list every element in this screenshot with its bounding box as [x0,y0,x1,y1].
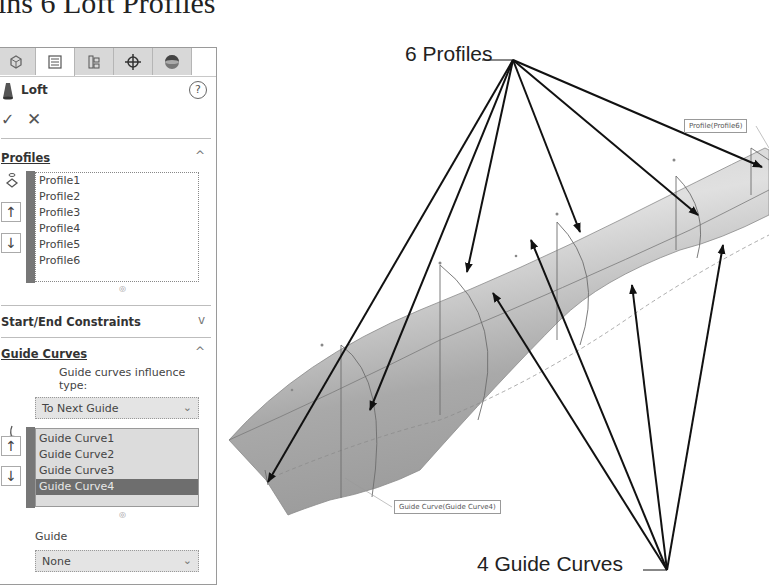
list-resize-grip[interactable]: ◎ [119,510,126,519]
profile-tag [756,126,769,148]
start-end-constraints-header[interactable]: Start/End Constraints v [1,313,211,333]
influence-type-dropdown[interactable]: To Next Guide ⌄ [35,397,199,419]
profile-selection-icon [5,172,19,190]
profiles-callout-label: 6 Profiles [405,42,493,66]
profile-move-up-button[interactable]: ↑ [1,202,21,222]
guide-dropdown[interactable]: None ⌄ [35,550,199,572]
feature-name: Loft [21,83,48,97]
start-end-constraints-title: Start/End Constraints [1,315,141,329]
chevron-down-icon[interactable]: v [198,313,205,327]
guide-curve4-tag[interactable]: Guide Curve(Guide Curve4) [394,500,501,514]
guide-curves-section-header[interactable]: Guide Curves ^ [1,345,211,365]
influence-type-label: Guide curves influence type: [59,366,216,392]
guide-curves-section-title: Guide Curves [1,347,87,361]
crosshair-icon [124,53,142,71]
list-item-profile3[interactable]: Profile3 [36,205,198,221]
list-item-guide-curve4[interactable]: Guide Curve4 [36,479,198,495]
help-icon[interactable]: ? [189,81,207,99]
tab-configuration-manager[interactable] [75,48,114,75]
tab-dimxpert-manager[interactable] [114,48,153,75]
manager-tabbar [0,48,216,77]
tab-display-manager[interactable] [153,48,192,75]
feature-tree-icon [7,53,25,71]
divider [1,305,211,306]
profile-move-down-button[interactable]: ↓ [1,233,21,253]
appearance-sphere-icon [163,53,181,71]
configuration-icon [85,53,103,71]
list-item-profile6[interactable]: Profile6 [36,253,198,269]
tab-property-manager[interactable] [36,48,75,76]
profiles-list[interactable]: Profile1 Profile2 Profile3 Profile4 Prof… [35,172,199,282]
loft-icon [1,82,15,100]
influence-type-value: To Next Guide [42,402,119,415]
guide-label: Guide [35,530,67,543]
loft-body[interactable] [229,148,769,515]
chevron-up-icon[interactable]: ^ [195,345,205,359]
loft-property-manager: Loft ? ✓ ✕ Profiles ^ ↑ ↓ Profile1 Profi… [0,47,217,585]
list-color-bar [26,427,35,508]
chevron-down-icon: ⌄ [183,554,192,567]
property-list-icon [46,53,64,71]
list-item-profile5[interactable]: Profile5 [36,237,198,253]
list-item-guide-curve1[interactable]: Guide Curve1 [36,431,198,447]
guide-curves-callout-label: 4 Guide Curves [477,552,623,576]
divider [1,337,211,338]
guide-value: None [42,555,71,568]
ok-button[interactable]: ✓ [1,110,14,129]
list-item-guide-curve2[interactable]: Guide Curve2 [36,447,198,463]
list-item-profile1[interactable]: Profile1 [36,173,198,189]
graphics-viewport[interactable] [218,0,769,586]
profiles-section-header[interactable]: Profiles ^ [1,149,211,169]
guide-move-down-button[interactable]: ↓ [1,466,21,486]
list-color-bar [26,171,35,283]
chevron-up-icon[interactable]: ^ [195,149,205,163]
page-title: ins 6 Loft Profiles [0,0,216,20]
cancel-button[interactable]: ✕ [27,109,41,129]
guide-curves-list[interactable]: Guide Curve1 Guide Curve2 Guide Curve3 G… [35,428,199,507]
list-item-guide-curve3[interactable]: Guide Curve3 [36,463,198,479]
feature-header: Loft ? [1,80,211,102]
profiles-section-title: Profiles [1,151,50,165]
list-item-profile2[interactable]: Profile2 [36,189,198,205]
guide-move-up-button[interactable]: ↑ [1,436,21,456]
profile6-tag[interactable]: Profile(Profile6) [684,119,747,133]
chevron-down-icon: ⌄ [183,401,192,414]
list-resize-grip[interactable]: ◎ [119,284,126,293]
list-item-profile4[interactable]: Profile4 [36,221,198,237]
tab-feature-manager[interactable] [0,48,36,75]
divider [1,138,211,139]
